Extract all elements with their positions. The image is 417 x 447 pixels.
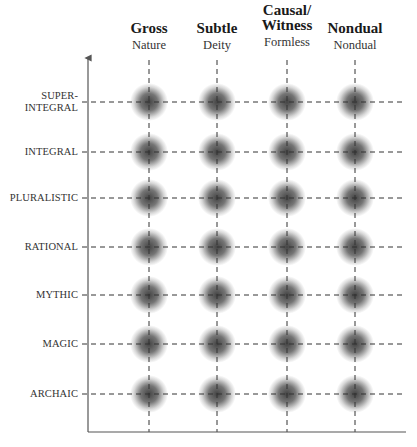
wilber-combs-lattice: [0, 0, 417, 447]
